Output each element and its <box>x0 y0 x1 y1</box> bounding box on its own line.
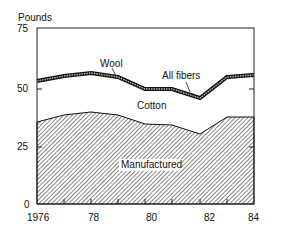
all-fibers-line <box>37 73 254 98</box>
x-tick-1976: 1976 <box>27 212 50 223</box>
all-fibers-label: All fibers <box>162 70 200 81</box>
y-axis-title: Pounds <box>18 12 52 23</box>
y-tick-50: 50 <box>17 83 29 94</box>
y-tick-0: 0 <box>24 199 30 210</box>
manufactured-label: Manufactured <box>121 159 182 170</box>
x-tick-84: 84 <box>248 212 260 223</box>
fiber-consumption-chart: Pounds 75 50 25 0 1976 78 80 82 84 Wool … <box>0 0 284 234</box>
manufactured-area <box>37 112 254 204</box>
y-tick-25: 25 <box>17 141 29 152</box>
x-tick-82: 82 <box>204 212 216 223</box>
x-tick-80: 80 <box>146 212 158 223</box>
y-tick-75: 75 <box>17 23 29 34</box>
wool-label: Wool <box>100 58 123 69</box>
x-tick-78: 78 <box>88 212 100 223</box>
cotton-label: Cotton <box>137 100 166 111</box>
